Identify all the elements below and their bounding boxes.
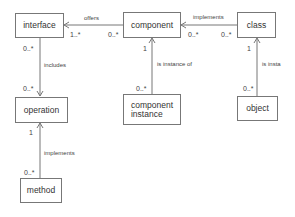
edge-label-offers: offers [84, 15, 99, 21]
node-label: class [247, 21, 266, 30]
edge-label-implements-class: implements [193, 14, 224, 20]
mult-object-source: 0..* [243, 85, 254, 92]
edge-label-is-insta: is insta [262, 61, 281, 67]
node-interface: interface [15, 13, 64, 38]
node-label: operation [24, 106, 59, 115]
mult-instance-source: 0..* [136, 85, 147, 92]
node-component: component [123, 12, 181, 38]
mult-offers-source: 0..* [108, 31, 119, 38]
mult-offers-target: 1..* [70, 31, 81, 38]
mult-method-target: 1 [29, 129, 33, 136]
edge-label-includes: includes [44, 62, 66, 68]
node-label: component [131, 21, 173, 30]
node-component-instance: component instance [123, 94, 181, 125]
mult-includes-source: 0..* [23, 45, 34, 52]
node-label: method [27, 186, 55, 195]
mult-method-source: 0..* [24, 169, 35, 176]
mult-implements-target: 0..* [188, 31, 199, 38]
node-method: method [20, 178, 62, 203]
node-label-line2: instance [131, 110, 173, 119]
edge-label-implements-method: implements [44, 150, 75, 156]
mult-instance-target: 1 [143, 45, 147, 52]
node-label: object [246, 104, 269, 113]
mult-implements-source: 0..* [221, 31, 232, 38]
node-object: object [237, 96, 278, 121]
edge-label-is-instance-of: is instance of [157, 61, 192, 67]
mult-object-target: 1 [247, 45, 251, 52]
node-label: interface [23, 21, 56, 30]
node-operation: operation [15, 97, 68, 123]
mult-includes-target: 0..* [23, 85, 34, 92]
node-class: class [237, 12, 276, 38]
